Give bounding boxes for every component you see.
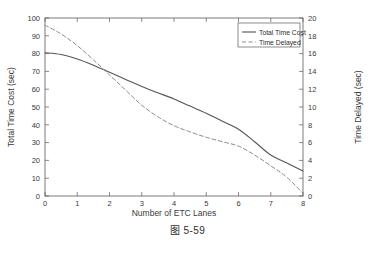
figure-caption: 图 5-59 [0,222,375,237]
y-axis-left-tick-label: 30 [32,138,40,147]
y-axis-left-tick-label: 70 [32,67,40,76]
y-axis-right-tick-label: 18 [308,32,316,41]
chart-canvas: 0102030405060708090100 02468101214161820… [0,0,375,256]
y-axis-left-tick-label: 90 [32,32,40,41]
y-axis-left-title: Total Time Cost (sec) [6,67,16,147]
x-axis-tick-label: 6 [236,199,240,208]
y-axis-left-tick-label: 100 [27,14,40,23]
figure-caption-number: 5-59 [183,225,205,236]
y-axis-right-tick-label: 16 [308,49,316,58]
figure-container: 0102030405060708090100 02468101214161820… [0,0,375,256]
chart-legend: Total Time CostTime Delayed [238,23,306,47]
x-axis-title: Number of ETC Lanes [132,208,217,218]
y-axis-right-tick-label: 6 [308,138,312,147]
x-axis-tick-label: 5 [204,199,208,208]
x-axis-tick-label: 4 [172,199,176,208]
legend-label-total-time-cost: Total Time Cost [259,29,306,36]
x-axis-tick-label: 0 [43,199,47,208]
y-axis-left-tick-label: 80 [32,49,40,58]
y-axis-right-title: Time Delayed (sec) [353,70,363,144]
y-axis-right-tick-label: 0 [308,192,312,201]
y-axis-right-tick-label: 10 [308,103,316,112]
y-axis-right-tick-label: 12 [308,85,316,94]
y-axis-left-tick-label: 10 [32,174,40,183]
legend-label-time-delayed: Time Delayed [259,39,301,47]
y-axis-right-tick-label: 20 [308,14,316,23]
y-axis-right-tick-label: 2 [308,174,312,183]
y-axis-left-tick-label: 50 [32,103,40,112]
x-axis-tick-label: 7 [269,199,273,208]
y-axis-right-tick-label: 4 [308,156,312,165]
x-axis-tick-label: 1 [75,199,79,208]
y-axis-right-tick-label: 14 [308,67,316,76]
x-axis-tick-label: 8 [301,199,305,208]
y-axis-left-tick-label: 20 [32,156,40,165]
y-axis-left-tick-label: 60 [32,85,40,94]
y-axis-right-tick-label: 8 [308,121,312,130]
figure-caption-label: 图 [170,225,181,236]
y-axis-left-tick-label: 0 [36,192,40,201]
x-axis-tick-label: 3 [140,199,144,208]
x-axis-tick-label: 2 [107,199,111,208]
y-axis-left-tick-label: 40 [32,121,40,130]
